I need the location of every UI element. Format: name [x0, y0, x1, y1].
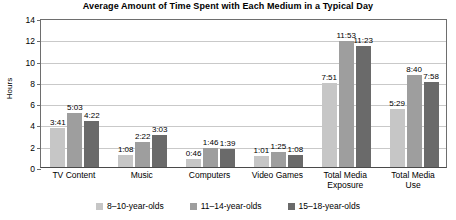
bar-value-label: 1:25: [271, 142, 287, 151]
bar-value-label: 3:03: [152, 125, 168, 134]
legend-swatch: [288, 203, 295, 210]
x-axis-category-label: Video Games: [244, 170, 312, 180]
bar: 7:51: [322, 83, 337, 167]
bar: 2:22: [135, 142, 150, 167]
bar-value-label: 7:51: [321, 73, 337, 82]
chart-legend: 8–10-year-olds11–14-year-olds15–18-year-…: [0, 201, 456, 211]
bar: 1:25: [271, 152, 286, 167]
bar-group: 1:082:223:03: [109, 20, 177, 167]
y-tick-label: 14: [26, 15, 35, 25]
bar: 0:46: [186, 159, 201, 167]
y-tick-label: 8: [30, 79, 35, 89]
x-axis-category-label: Music: [108, 170, 176, 180]
bar: 1:01: [254, 156, 269, 167]
legend-label: 15–18-year-olds: [299, 201, 360, 211]
bar: 7:58: [424, 82, 439, 167]
bar-value-label: 1:08: [288, 145, 304, 154]
bar: 3:41: [50, 128, 65, 167]
bar: 1:39: [220, 149, 235, 167]
bar-group: 0:461:461:39: [177, 20, 245, 167]
bar-group: 7:5111:5311:23: [312, 20, 380, 167]
x-axis-category-label: Total Media Exposure: [311, 170, 379, 190]
legend-label: 11–14-year-olds: [201, 201, 262, 211]
bar-value-label: 4:22: [84, 111, 100, 120]
bar-value-label: 5:29: [389, 99, 405, 108]
y-axis-label: Hours: [5, 67, 14, 111]
bar-group: 5:298:407:58: [380, 20, 448, 167]
bar-value-label: 3:41: [50, 118, 66, 127]
bar-group: 3:415:034:22: [41, 20, 109, 167]
y-tick-label: 12: [26, 36, 35, 46]
bar: 5:29: [390, 109, 405, 167]
bar-value-label: 0:46: [186, 149, 202, 158]
x-axis-category-label: Total Media Use: [379, 170, 447, 190]
bar-value-label: 5:03: [67, 103, 83, 112]
plot-area: 024681012143:415:034:221:082:223:030:461…: [40, 19, 447, 168]
bar-value-label: 7:58: [423, 72, 439, 81]
bar: 11:53: [339, 41, 354, 167]
bar: 11:23: [356, 46, 371, 167]
chart-title: Average Amount of Time Spent with Each M…: [0, 1, 456, 11]
y-tick-label: 10: [26, 58, 35, 68]
x-axis-category-label: TV Content: [40, 170, 108, 180]
bar-value-label: 1:01: [254, 146, 270, 155]
legend-item: 11–14-year-olds: [190, 201, 262, 211]
bar-value-label: 8:40: [406, 65, 422, 74]
y-tick-label: 0: [30, 164, 35, 174]
y-tick-label: 2: [30, 143, 35, 153]
x-axis-category-label: Computers: [176, 170, 244, 180]
legend-swatch: [190, 203, 197, 210]
bar-value-label: 1:39: [220, 139, 236, 148]
bar: 4:22: [84, 121, 99, 168]
bar: 1:46: [203, 148, 218, 167]
bar: 3:03: [152, 135, 167, 167]
bar: 1:08: [288, 155, 303, 167]
bar-group: 1:011:251:08: [245, 20, 313, 167]
bar: 1:08: [118, 155, 133, 167]
bar-value-label: 1:46: [203, 138, 219, 147]
bar-value-label: 2:22: [135, 132, 151, 141]
bar: 8:40: [407, 75, 422, 167]
y-tick-label: 6: [30, 100, 35, 110]
y-tick-label: 4: [30, 121, 35, 131]
legend-item: 8–10-year-olds: [96, 201, 164, 211]
legend-swatch: [96, 203, 103, 210]
bar-value-label: 1:08: [118, 145, 134, 154]
legend-item: 15–18-year-olds: [288, 201, 360, 211]
bar-chart: Average Amount of Time Spent with Each M…: [0, 0, 456, 220]
bar: 5:03: [67, 113, 82, 167]
bar-value-label: 11:23: [354, 36, 373, 45]
legend-label: 8–10-year-olds: [107, 201, 164, 211]
